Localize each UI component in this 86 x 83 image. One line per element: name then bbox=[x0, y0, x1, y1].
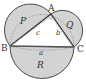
vertex-label-a: A bbox=[47, 3, 55, 13]
lunes-diagram: A B C P Q R c b a bbox=[0, 0, 86, 83]
side-label-a: a bbox=[39, 49, 43, 57]
vertex-label-c: C bbox=[77, 44, 84, 54]
side-label-c: c bbox=[36, 29, 40, 37]
side-label-b: b bbox=[56, 29, 61, 37]
region-label-q: Q bbox=[66, 20, 74, 30]
vertex-label-b: B bbox=[1, 43, 8, 53]
region-label-r: R bbox=[36, 60, 44, 70]
region-label-p: P bbox=[19, 16, 27, 26]
side-a bbox=[10, 46, 74, 47]
